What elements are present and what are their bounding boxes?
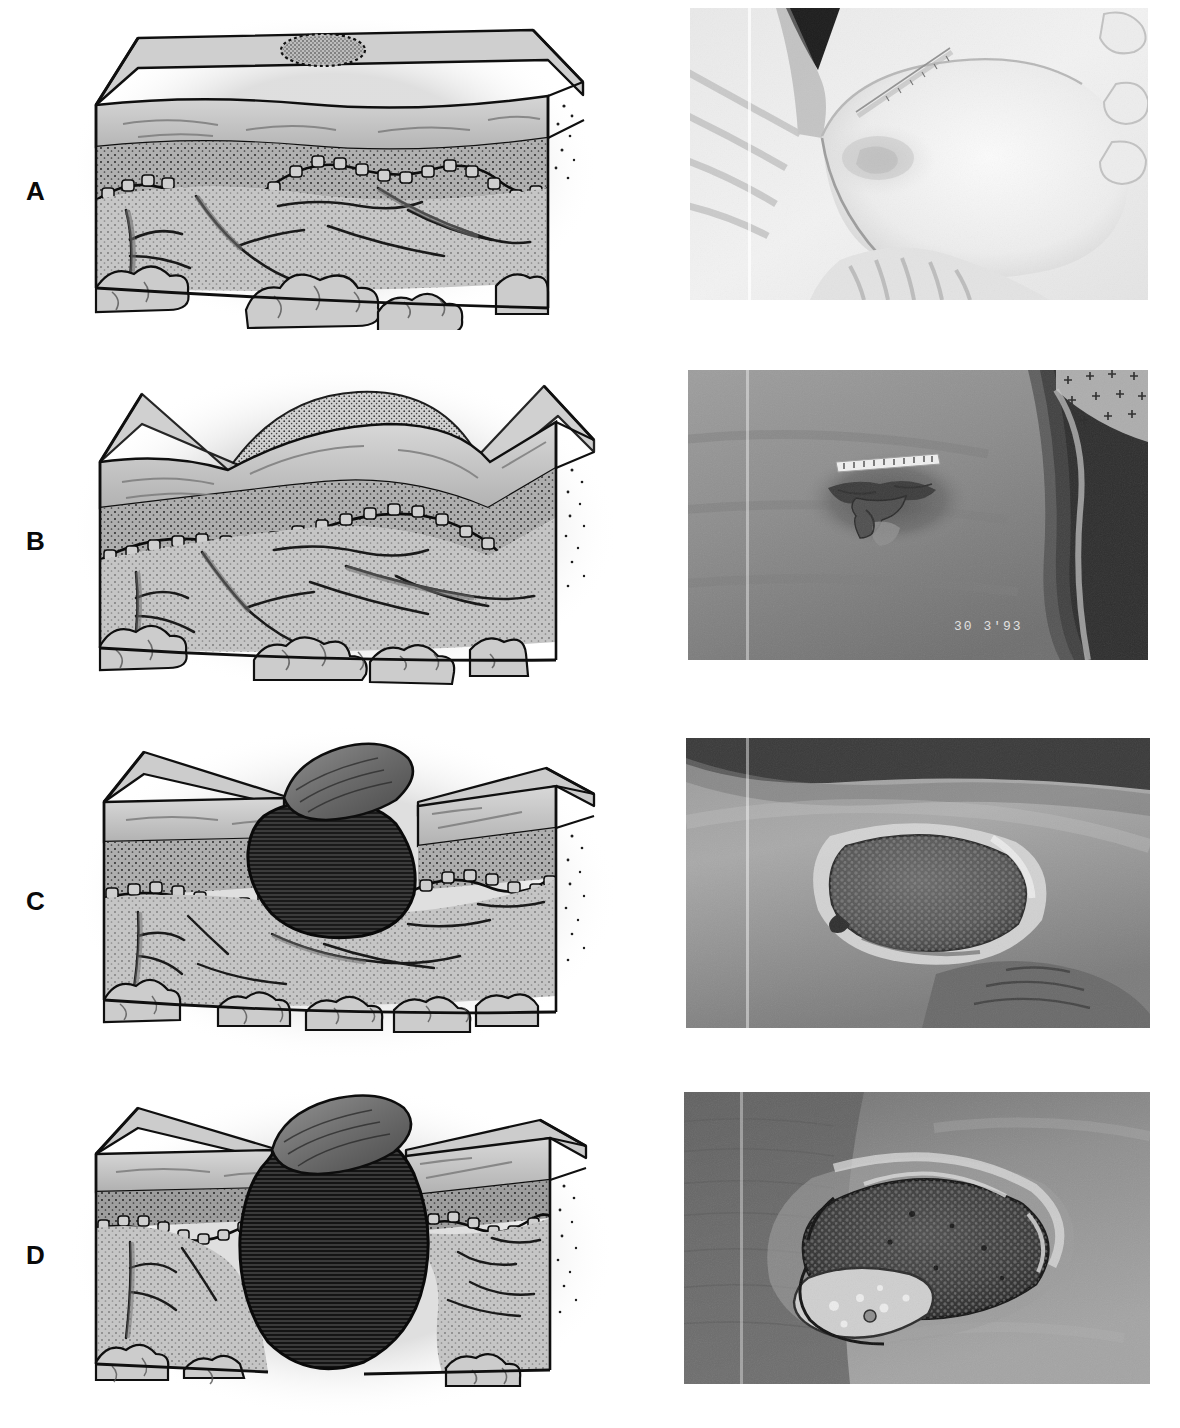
panel-letter-c: C — [26, 888, 45, 914]
panel-c: C — [0, 710, 1180, 1070]
scan-seam — [748, 8, 751, 300]
stage-1-cross-section — [78, 20, 598, 330]
panel-a: A — [0, 0, 1180, 350]
stage-3-cross-section — [78, 728, 618, 1058]
stage-2-clinical-photo: 30 3'93 — [688, 370, 1148, 660]
stage-4-cross-section — [72, 1086, 612, 1416]
scan-seam — [746, 738, 749, 1028]
pressure-ulcer-staging-figure: A — [0, 0, 1180, 1428]
panel-letter-d: D — [26, 1242, 45, 1268]
panel-letter-a: A — [26, 178, 45, 204]
surface-lesion-marker — [281, 34, 365, 66]
panel-b: B — [0, 350, 1180, 710]
stage-2-cross-section — [78, 370, 618, 690]
scan-seam — [746, 370, 749, 660]
stage-4-clinical-photo — [684, 1092, 1150, 1384]
stage-3-clinical-photo — [686, 738, 1150, 1028]
scan-seam — [740, 1092, 743, 1384]
stage-1-clinical-photo — [690, 8, 1148, 300]
panel-letter-b: B — [26, 528, 45, 554]
panel-d: D — [0, 1070, 1180, 1428]
